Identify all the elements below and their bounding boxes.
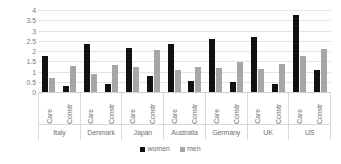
category-axis-cell: Care	[122, 93, 142, 124]
bar-men[interactable]	[91, 74, 97, 92]
bar-group	[205, 10, 247, 92]
bar-men[interactable]	[175, 70, 181, 92]
bar-men[interactable]	[237, 62, 243, 92]
bar-chart: 00.511.522.533.54 CareConstrCareConstrCa…	[0, 0, 341, 164]
bar-men[interactable]	[216, 68, 222, 92]
bar-pair	[38, 10, 59, 92]
category-axis-label: Care	[213, 108, 220, 124]
bar-women[interactable]	[209, 39, 215, 92]
category-label-group: CareConstr	[288, 93, 331, 124]
bar-men[interactable]	[195, 67, 201, 92]
group-axis-label: Japan	[121, 125, 163, 140]
bar-men[interactable]	[133, 67, 139, 92]
bar-men[interactable]	[49, 78, 55, 92]
bar-women[interactable]	[126, 48, 132, 92]
bar-men[interactable]	[321, 49, 327, 92]
legend-swatch-icon	[140, 147, 145, 152]
bar-men[interactable]	[258, 69, 264, 92]
y-axis-tick-label: 2.5	[27, 37, 36, 44]
category-axis-label: Constr	[191, 103, 198, 124]
bar-group	[80, 10, 122, 92]
bar-women[interactable]	[251, 37, 257, 92]
legend-item[interactable]: women	[140, 145, 170, 153]
category-axis-cell: Care	[206, 93, 226, 124]
category-axis-cell: Care	[39, 93, 59, 124]
bar-group	[122, 10, 164, 92]
category-label-group: CareConstr	[80, 93, 122, 124]
bar-men[interactable]	[154, 50, 160, 92]
bar-pair	[268, 10, 289, 92]
bar-group	[289, 10, 331, 92]
category-label-group: CareConstr	[205, 93, 247, 124]
legend-item[interactable]: men	[180, 145, 201, 153]
legend-label: men	[187, 145, 201, 153]
bar-groups	[38, 10, 331, 92]
group-axis-label: Denmark	[80, 125, 122, 140]
legend-label: women	[147, 145, 170, 153]
category-axis-label: Constr	[66, 103, 73, 124]
category-axis-cell: Constr	[226, 93, 246, 124]
bar-women[interactable]	[84, 44, 90, 92]
group-axis-label: US	[288, 125, 331, 140]
bar-men[interactable]	[112, 65, 118, 92]
bar-women[interactable]	[293, 15, 299, 92]
category-axis-label: Constr	[149, 103, 156, 124]
category-axis-cell: Care	[81, 93, 101, 124]
category-label-group: CareConstr	[38, 93, 80, 124]
category-axis-label: Constr	[108, 103, 115, 124]
bar-men[interactable]	[70, 66, 76, 92]
y-axis-tick-label: 4	[32, 7, 36, 14]
group-axis-label: Italy	[38, 125, 80, 140]
bar-women[interactable]	[272, 84, 278, 92]
category-label-group: CareConstr	[163, 93, 205, 124]
group-axis: ItalyDenmarkJapanAustraliaGermanyUKUS	[38, 124, 331, 140]
bar-women[interactable]	[105, 84, 111, 92]
bar-pair	[80, 10, 101, 92]
category-axis-cell: Care	[289, 93, 309, 124]
bar-women[interactable]	[314, 70, 320, 92]
category-axis-cell: Constr	[268, 93, 288, 124]
category-label-group: CareConstr	[121, 93, 163, 124]
bar-pair	[101, 10, 122, 92]
category-axis-cell: Constr	[310, 93, 330, 124]
bar-pair	[164, 10, 185, 92]
group-axis-label: UK	[247, 125, 289, 140]
y-axis-tick-label: 0.5	[27, 78, 36, 85]
bar-pair	[289, 10, 310, 92]
bar-pair	[185, 10, 206, 92]
bar-women[interactable]	[42, 56, 48, 92]
category-axis-cell: Care	[248, 93, 268, 124]
bar-group	[164, 10, 206, 92]
bar-pair	[143, 10, 164, 92]
bar-women[interactable]	[147, 76, 153, 92]
legend-swatch-icon	[180, 147, 185, 152]
bar-men[interactable]	[300, 56, 306, 92]
category-axis-cell: Constr	[185, 93, 205, 124]
category-axis-label: Constr	[316, 103, 323, 124]
category-axis-label: Care	[296, 108, 303, 124]
bar-pair	[247, 10, 268, 92]
category-axis: CareConstrCareConstrCareConstrCareConstr…	[38, 93, 331, 124]
y-axis: 00.511.522.533.54	[16, 10, 36, 92]
bar-women[interactable]	[230, 82, 236, 92]
category-axis-cell: Constr	[143, 93, 163, 124]
bar-women[interactable]	[63, 86, 69, 92]
y-axis-tick-label: 2	[32, 48, 36, 55]
category-axis-cell: Constr	[59, 93, 79, 124]
group-axis-label: Germany	[205, 125, 247, 140]
bar-women[interactable]	[168, 44, 174, 92]
y-axis-tick-label: 3.5	[27, 17, 36, 24]
y-axis-tick-label: 0	[32, 89, 36, 96]
category-axis-label: Care	[254, 108, 261, 124]
category-axis-cell: Constr	[101, 93, 121, 124]
plot-area	[38, 10, 331, 92]
bar-women[interactable]	[188, 81, 194, 92]
bar-men[interactable]	[279, 64, 285, 92]
group-axis-label: Australia	[163, 125, 205, 140]
bar-group	[38, 10, 80, 92]
y-axis-tick-label: 1.5	[27, 58, 36, 65]
category-axis-label: Care	[171, 108, 178, 124]
bar-pair	[226, 10, 247, 92]
category-axis-label: Constr	[275, 103, 282, 124]
legend: womenmen	[0, 145, 341, 153]
